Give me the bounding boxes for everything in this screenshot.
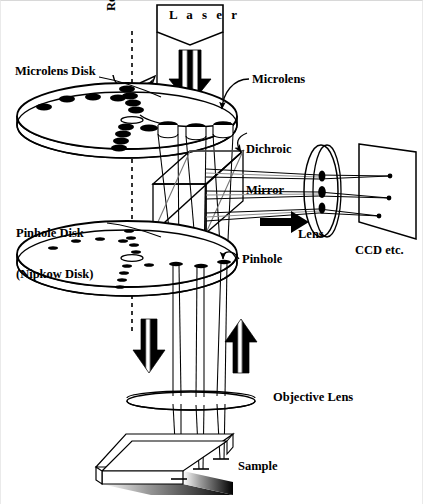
ccd-plane — [359, 144, 416, 239]
confocal-diagram: L a s e r Rotation Microlens Disk Microl… — [0, 0, 423, 504]
dichroic-mirror-label-line1: Dichroic — [246, 143, 292, 157]
pinhole-disk-label-line2: (Nipkow Disk) — [16, 268, 93, 282]
dichroic-mirror-label-line2: Mirror — [246, 184, 292, 198]
sample-slab — [96, 434, 233, 495]
sample-label: Sample — [238, 460, 278, 474]
dichroic-mirror — [153, 151, 243, 233]
lens-label: Lens — [298, 228, 324, 242]
dichroic-mirror-label: Dichroic Mirror — [246, 116, 292, 224]
relay-lens — [304, 145, 341, 237]
pinhole-label: Pinhole — [242, 253, 282, 267]
objective-lens — [127, 391, 255, 410]
pinhole-disk-label: Pinhole Disk (Nipkow Disk) — [16, 200, 93, 308]
active-microlenses — [158, 121, 233, 140]
fluorescence-direction-arrow-icon — [225, 319, 257, 373]
excitation-direction-arrow-icon — [133, 319, 165, 373]
microlens-disk-label: Microlens Disk — [15, 65, 96, 79]
objective-lens-label: Objective Lens — [273, 391, 353, 405]
pinhole-disk-label-line1: Pinhole Disk — [16, 227, 93, 241]
ccd-label: CCD etc. — [355, 244, 404, 258]
microlens-disk — [17, 83, 237, 158]
laser-label: L a s e r — [169, 8, 240, 22]
microlens-label: Microlens — [252, 73, 305, 87]
rotation-label: Rotation — [105, 0, 119, 11]
